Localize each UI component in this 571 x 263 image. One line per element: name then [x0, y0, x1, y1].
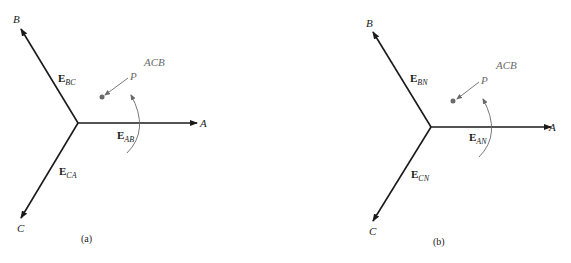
point-pointer-a: [105, 78, 128, 95]
label-b-axis-a: A: [548, 121, 556, 133]
vector-label-b-an: EAN: [469, 131, 487, 146]
rotation-arc-b: [479, 99, 492, 157]
rotation-arc-a: [127, 95, 140, 153]
vector-label-a-ab: EAB: [117, 129, 134, 144]
label-a-axis-b: B: [13, 13, 20, 25]
point-pointer-b: [457, 82, 479, 99]
point-p-dot-a: [100, 95, 105, 100]
sequence-label-b: ACB: [495, 59, 517, 71]
caption-a: (a): [81, 233, 92, 245]
vector-label-a-ca: ECA: [59, 165, 77, 180]
panel-b: A B C EAN EBN ECN ACB P (b): [366, 17, 556, 248]
phasor-a-axis-b: [21, 29, 78, 123]
panel-a: A B C EAB EBC ECA ACB P (a): [13, 13, 207, 245]
label-a-axis-a: A: [199, 117, 207, 129]
phasor-diagram-canvas: A B C EAB EBC ECA ACB P (a) A B C EAN EB…: [0, 0, 571, 263]
point-label-b: P: [480, 74, 488, 86]
label-b-axis-c: C: [369, 225, 377, 237]
label-a-axis-c: C: [17, 222, 25, 234]
sequence-label-a: ACB: [143, 56, 165, 68]
vector-label-a-bc: EBC: [58, 72, 76, 87]
point-label-a: P: [129, 70, 137, 82]
vector-label-b-bn: EBN: [410, 72, 428, 87]
vector-label-b-cn: ECN: [411, 168, 430, 183]
label-b-axis-b: B: [366, 17, 373, 29]
caption-b: (b): [433, 236, 445, 248]
point-p-dot-b: [451, 99, 456, 104]
